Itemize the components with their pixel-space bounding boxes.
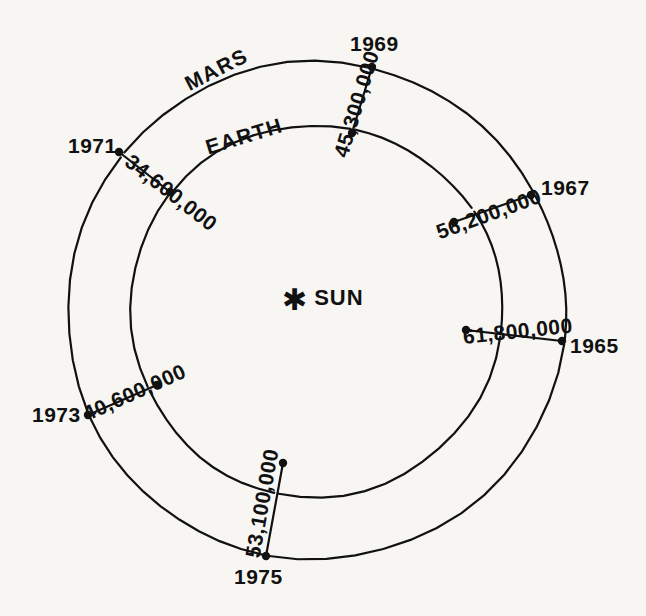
year-label-1973: 1973 <box>32 404 81 425</box>
mars-position-dot-1965 <box>558 337 566 345</box>
sun-asterisk-icon: ✱ <box>282 285 307 315</box>
year-label-1965: 1965 <box>570 335 619 356</box>
orbit-diagram: 196561,800,000196756,200,000196945,300,0… <box>0 0 646 616</box>
year-label-1969: 1969 <box>350 33 399 54</box>
year-label-1971: 1971 <box>68 135 117 156</box>
year-label-1967: 1967 <box>541 177 590 198</box>
year-label-1975: 1975 <box>234 566 283 587</box>
sun-label: SUN <box>314 285 363 311</box>
sun-marker: ✱ SUN <box>282 283 364 313</box>
